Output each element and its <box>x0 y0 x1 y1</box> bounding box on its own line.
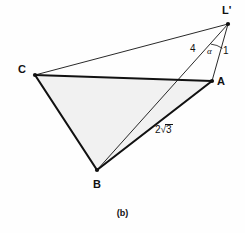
angle-label-alpha: α <box>207 47 212 56</box>
vertex-label-C: C <box>18 64 26 75</box>
geometry-canvas <box>0 0 245 233</box>
vertex-dot-A <box>210 79 214 83</box>
vertex-label-A: A <box>217 76 225 87</box>
edge-C-to-Lprime <box>35 24 228 75</box>
segment-length-label-one: 1 <box>223 46 229 56</box>
geometry-figure: L' C A B 4 1 α 2√3 (b) <box>0 0 245 233</box>
shaded-triangle-CAB <box>35 75 212 170</box>
vertex-label-L-prime: L' <box>222 5 231 16</box>
vertex-dot-B <box>95 168 99 172</box>
segment-length-label-four: 4 <box>190 44 196 54</box>
angle-arc-alpha <box>211 44 223 48</box>
vertex-label-B: B <box>93 179 101 190</box>
vertex-dot-C <box>33 73 37 77</box>
figure-caption: (b) <box>0 208 245 218</box>
segment-length-label-two-root-three: 2√3 <box>155 124 173 136</box>
vertex-dot-Lprime <box>226 22 230 26</box>
radicand-value: 3 <box>165 124 173 136</box>
